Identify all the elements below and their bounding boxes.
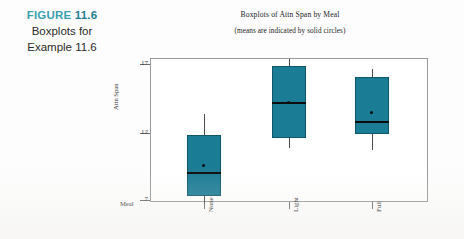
x-axis-tick xyxy=(372,202,373,209)
figure-caption-heading: FIGURE 11.6 xyxy=(6,8,118,24)
x-axis-tick-label-full: Full xyxy=(375,201,382,212)
figure-label: FIGURE xyxy=(27,9,72,21)
mean-marker-light xyxy=(287,101,290,104)
y-axis-tick-label: 12 xyxy=(141,128,148,136)
figure-caption-line-3: Example 11.6 xyxy=(6,40,118,56)
chart-subtitle: (means are indicated by solid circles) xyxy=(118,27,462,35)
figure-caption-line-2: Boxplots for xyxy=(6,24,118,40)
whisker-upper xyxy=(204,114,205,135)
whisker-lower xyxy=(289,138,290,148)
box-full xyxy=(355,77,389,134)
whisker-lower xyxy=(204,196,205,204)
x-axis-tick xyxy=(289,202,290,209)
chart-title: Boxplots of Attn Span by Meal xyxy=(118,10,462,19)
x-axis-tick-label-none: None xyxy=(207,197,214,212)
median-full xyxy=(355,121,389,123)
median-none xyxy=(187,172,221,174)
x-axis-tick-label-light: Light xyxy=(292,197,299,212)
mean-marker-full xyxy=(370,111,373,114)
boxplot-chart: Boxplots of Attn Span by Meal (means are… xyxy=(118,2,462,237)
figure-number: 11.6 xyxy=(75,9,98,21)
whisker-upper xyxy=(289,59,290,66)
mean-marker-none xyxy=(202,164,205,167)
figure-caption: FIGURE 11.6 Boxplots for Example 11.6 xyxy=(6,8,118,56)
y-axis-title: Attn Span xyxy=(112,83,119,110)
figure-root: FIGURE 11.6 Boxplots for Example 11.6 Bo… xyxy=(0,0,464,239)
x-axis-title: Meal xyxy=(120,200,134,207)
y-axis-tick-label: 17 xyxy=(141,59,148,67)
whisker-lower xyxy=(372,134,373,150)
y-axis-tick-label: 7 xyxy=(145,195,149,203)
